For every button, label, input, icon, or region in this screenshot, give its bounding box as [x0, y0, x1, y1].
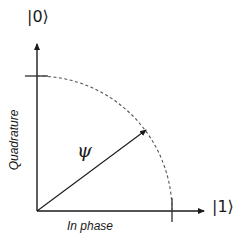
state-zero-label: |0⟩ [27, 7, 49, 26]
unit-circle-arc [37, 76, 172, 211]
phasor-diagram [0, 0, 246, 242]
quadrature-axis-label: Quadrature [7, 104, 21, 176]
in-phase-axis-label: In phase [67, 219, 113, 233]
psi-label: ψ [77, 139, 92, 161]
state-one-label: |1⟩ [212, 197, 234, 216]
